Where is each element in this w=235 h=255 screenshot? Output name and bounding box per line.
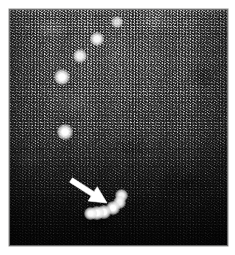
- ultrasound-figure: Grayscale B-mode ultrasound speckle imag…: [0, 0, 235, 255]
- ultrasound-scan-image: [9, 9, 228, 246]
- figure-alt-text: Grayscale B-mode ultrasound speckle imag…: [0, 0, 1, 1]
- speckle-lowfreq-blotches: [9, 9, 228, 246]
